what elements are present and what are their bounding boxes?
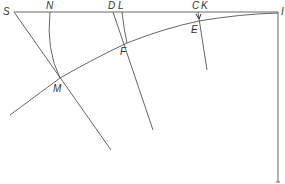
label-L: L bbox=[118, 0, 124, 11]
label-S: S bbox=[3, 6, 10, 17]
label-E: E bbox=[191, 24, 198, 35]
arc-NM bbox=[49, 12, 60, 78]
arc-LF bbox=[122, 12, 127, 43]
label-D: D bbox=[108, 0, 115, 11]
geometric-diagram: S N D L C K I M F E bbox=[0, 0, 285, 184]
label-K: K bbox=[201, 0, 209, 11]
line-SM bbox=[14, 12, 111, 150]
label-I: I bbox=[281, 6, 284, 17]
line-DF bbox=[113, 12, 153, 130]
label-C: C bbox=[192, 0, 200, 11]
label-F: F bbox=[120, 46, 127, 57]
label-M: M bbox=[53, 83, 62, 94]
label-N: N bbox=[46, 0, 54, 11]
